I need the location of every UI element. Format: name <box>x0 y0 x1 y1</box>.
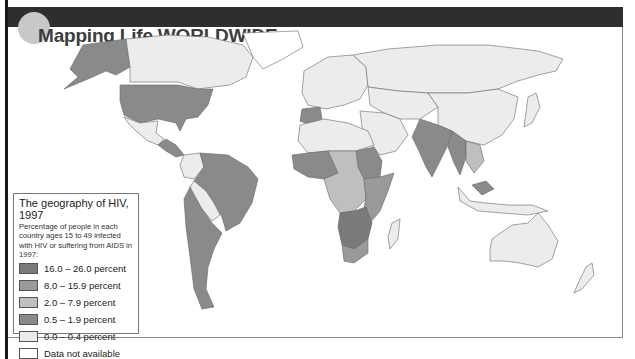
header-band <box>8 7 623 27</box>
legend-item: Data not available <box>19 345 133 359</box>
legend-swatch <box>19 348 38 359</box>
legend-item: 2.0 – 7.9 percent <box>19 294 133 310</box>
region-russia[interactable] <box>353 45 563 93</box>
legend-item: 8.0 – 15.9 percent <box>19 277 133 293</box>
region-greenland[interactable] <box>243 31 303 69</box>
legend-swatch <box>19 297 38 308</box>
legend: The geography of HIV, 1997 Percentage of… <box>13 193 139 334</box>
legend-swatch <box>19 331 38 342</box>
region-canada[interactable] <box>126 35 253 89</box>
legend-description: Percentage of people in each country age… <box>19 222 133 259</box>
region-europe[interactable] <box>302 55 368 109</box>
legend-label: 2.0 – 7.9 percent <box>44 297 115 308</box>
region-new-zealand[interactable] <box>574 263 594 293</box>
legend-item: 16.0 – 26.0 percent <box>19 260 133 276</box>
region-madagascar[interactable] <box>388 219 400 249</box>
region-indochina[interactable] <box>466 141 484 173</box>
region-central-america[interactable] <box>158 139 184 157</box>
legend-swatch <box>19 280 38 291</box>
legend-items: 16.0 – 26.0 percent8.0 – 15.9 percent2.0… <box>19 260 133 359</box>
legend-swatch <box>19 314 38 325</box>
region-indonesia[interactable] <box>458 187 548 215</box>
legend-item: 0.5 – 1.9 percent <box>19 311 133 327</box>
legend-label: 0.5 – 1.9 percent <box>44 314 115 325</box>
legend-label: 8.0 – 15.9 percent <box>44 280 121 291</box>
legend-label: Data not available <box>44 348 120 359</box>
region-australia[interactable] <box>490 213 558 267</box>
legend-item: 0.0 – 0.4 percent <box>19 328 133 344</box>
region-alaska[interactable] <box>64 39 130 89</box>
region-malaysia[interactable] <box>472 181 494 195</box>
region-japan[interactable] <box>524 93 540 127</box>
legend-label: 16.0 – 26.0 percent <box>44 263 126 274</box>
legend-title: The geography of HIV, 1997 <box>19 197 133 221</box>
legend-label: 0.0 – 0.4 percent <box>44 331 115 342</box>
legend-swatch <box>19 263 38 274</box>
